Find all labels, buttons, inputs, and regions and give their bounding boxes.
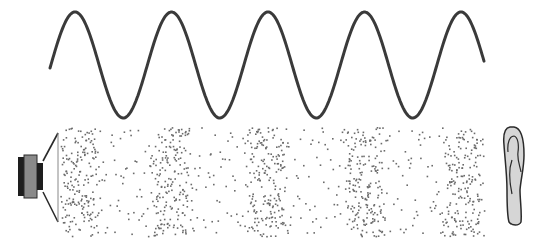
- sound-wave-diagram: [0, 0, 540, 245]
- background: [0, 0, 540, 245]
- speaker-coil: [37, 163, 43, 190]
- speaker-body: [24, 155, 37, 198]
